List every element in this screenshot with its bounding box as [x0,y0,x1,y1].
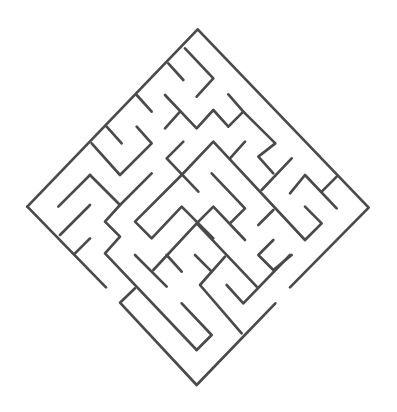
inner-wall [165,112,180,129]
inner-wall [230,142,245,159]
inner-wall [322,177,337,192]
inner-wall [290,175,337,208]
inner-wall [182,142,322,240]
maze-walls [0,0,397,412]
inner-wall [75,238,90,253]
inner-wall [195,255,212,272]
inner-wall [107,127,122,144]
inner-wall [258,240,291,270]
inner-wall [167,255,182,272]
outer-wall [120,288,275,385]
inner-wall [228,94,275,173]
inner-wall [90,175,120,205]
inner-wall [168,63,183,80]
inner-wall [197,207,245,240]
inner-wall [92,127,152,175]
inner-wall [137,95,152,112]
inner-wall [153,223,256,286]
inner-wall [185,48,213,96]
inner-wall [258,210,273,225]
inner-wall [58,175,90,207]
inner-wall [227,255,290,303]
outer-wall [27,207,106,288]
maze-canvas: Maze puzzle [0,0,397,412]
inner-wall [60,205,90,235]
inner-wall [262,158,292,190]
inner-wall [212,173,245,223]
